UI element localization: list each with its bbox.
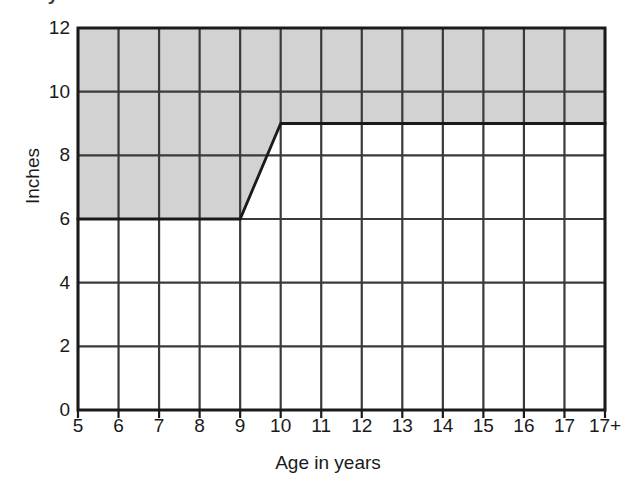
x-tick-label: 17 — [554, 416, 575, 435]
x-tick-label: 12 — [351, 416, 372, 435]
x-tick-label: 5 — [73, 416, 84, 435]
x-tick-label: 13 — [392, 416, 413, 435]
x-tick-label: 15 — [473, 416, 494, 435]
x-tick-label: 17+ — [589, 416, 621, 435]
x-tick-label: 14 — [432, 416, 453, 435]
plot-area — [78, 28, 605, 410]
x-tick-label: 6 — [113, 416, 124, 435]
x-tick-label: 10 — [270, 416, 291, 435]
y-tick-label: 0 — [34, 400, 70, 419]
x-tick-label: 7 — [154, 416, 165, 435]
x-tick-label: 8 — [194, 416, 205, 435]
y-tick-label: 8 — [34, 145, 70, 164]
y-tick-label: 2 — [34, 336, 70, 355]
y-tick-label: 10 — [34, 82, 70, 101]
y-tick-label: 6 — [34, 209, 70, 228]
x-tick-label: 11 — [311, 416, 331, 435]
x-tick-label: 9 — [235, 416, 246, 435]
plot-svg — [78, 28, 605, 410]
chart-figure: Boy's dilation Inches Age in years 02468… — [0, 0, 634, 484]
y-tick-label: 12 — [34, 18, 70, 37]
x-tick-label: 16 — [513, 416, 534, 435]
y-tick-label: 4 — [34, 273, 70, 292]
